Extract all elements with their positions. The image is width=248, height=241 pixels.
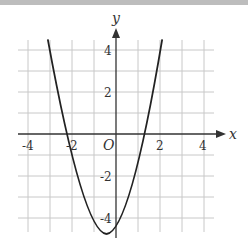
y-tick-label: -4 [100,212,112,226]
y-tick-label: 2 [104,86,112,100]
x-tick-label: 2 [156,139,164,153]
x-axis-label: x [229,126,237,142]
y-axis-arrow-icon [112,28,120,38]
y-tick-label: -2 [100,170,112,184]
x-tick-label: -4 [22,139,34,153]
x-tick-label: 4 [199,139,207,153]
x-tick-label: -2 [66,139,78,153]
y-axis-label: y [111,10,121,26]
x-axis-arrow-icon [216,130,226,138]
axes [18,36,220,238]
graph: y x O -4 -2 2 4 4 2 -2 -4 [0,0,248,241]
y-tick-label: 4 [104,44,112,58]
origin-label: O [103,137,115,153]
